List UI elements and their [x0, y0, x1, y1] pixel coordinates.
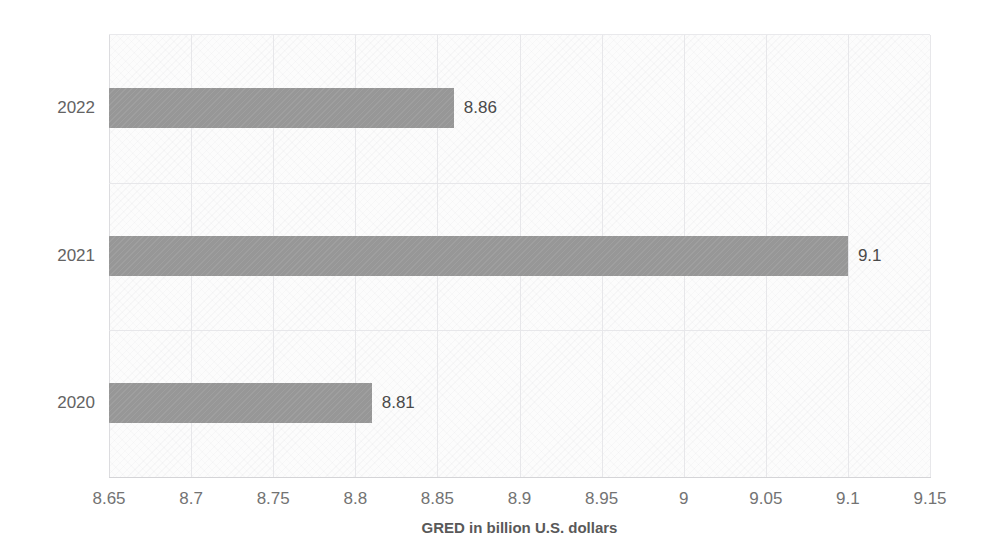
x-tick-label: 9.15 [913, 489, 946, 509]
x-tick-label: 8.95 [585, 489, 618, 509]
x-tick-label: 8.75 [257, 489, 290, 509]
x-tick-label: 9.1 [836, 489, 860, 509]
bar[interactable] [109, 383, 372, 423]
gridline-horizontal [109, 183, 930, 184]
gridline-vertical [848, 35, 849, 478]
category-axis-labels: 202220212020 [0, 0, 95, 559]
bar-chart: 202220212020 8.869.18.81 8.658.78.758.88… [0, 0, 998, 559]
category-label: 2021 [9, 246, 95, 266]
bar-value-label: 8.86 [464, 98, 497, 118]
x-tick-label: 8.9 [508, 489, 532, 509]
gridline-vertical [930, 35, 931, 478]
x-tick-label: 8.85 [421, 489, 454, 509]
gridline-horizontal [109, 330, 930, 331]
bar-value-label: 8.81 [382, 393, 415, 413]
x-tick-label: 9.05 [749, 489, 782, 509]
bar-value-label: 9.1 [858, 246, 882, 266]
x-tick-label: 9 [679, 489, 688, 509]
x-tick-label: 8.65 [92, 489, 125, 509]
x-axis-line [109, 477, 931, 478]
bar[interactable] [109, 236, 848, 276]
x-axis-title: GRED in billion U.S. dollars [109, 519, 930, 536]
x-tick-label: 8.8 [343, 489, 367, 509]
bar[interactable] [109, 88, 454, 128]
x-tick-label: 8.7 [179, 489, 203, 509]
category-label: 2020 [9, 393, 95, 413]
category-label: 2022 [9, 98, 95, 118]
